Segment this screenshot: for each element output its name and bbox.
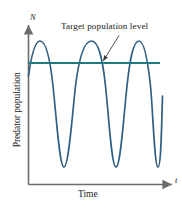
target-population-level-label: Target population level xyxy=(61,22,148,31)
predator-population-figure: Target population level Time Predator po… xyxy=(0,0,182,215)
chart-canvas xyxy=(0,0,182,215)
y-axis-variable-label: N xyxy=(30,13,36,22)
x-axis-title: Time xyxy=(78,190,98,200)
x-axis-variable-label: t xyxy=(175,176,177,185)
y-axis-title: Predator population xyxy=(13,54,23,166)
target-annotation-pointer-icon xyxy=(104,36,120,61)
predator-population-curve xyxy=(29,41,163,167)
